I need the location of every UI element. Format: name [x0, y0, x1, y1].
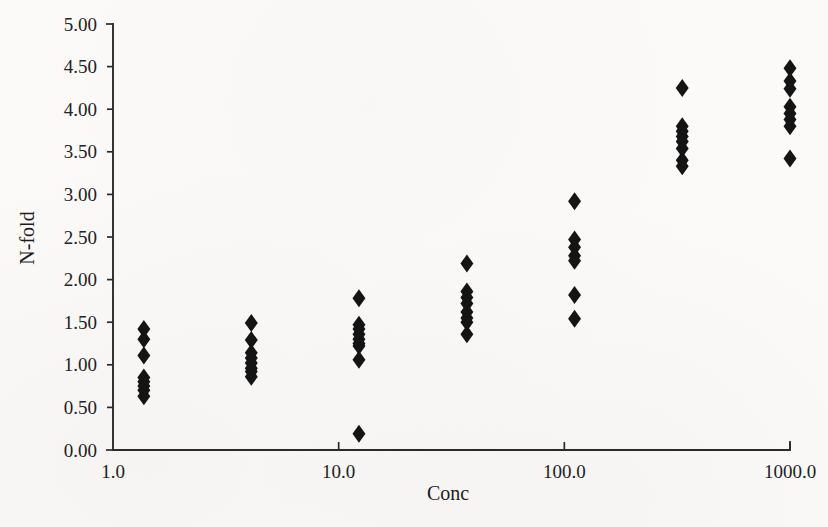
data-point-marker [137, 346, 150, 364]
data-point-marker [352, 289, 365, 307]
data-point-marker [568, 286, 581, 304]
data-point-marker [676, 79, 689, 97]
data-point-marker [352, 351, 365, 369]
y-axis-title: N-fold [16, 211, 38, 264]
y-tick-label: 0.50 [64, 397, 97, 418]
y-tick-label: 1.50 [64, 312, 97, 333]
x-tick-label: 1000.0 [764, 461, 816, 482]
x-tick-label: 1.0 [101, 461, 125, 482]
data-point-marker [245, 314, 258, 332]
x-tick-label: 100.0 [543, 461, 586, 482]
data-point-marker [352, 425, 365, 443]
data-point-marker [568, 192, 581, 210]
data-point-marker [568, 310, 581, 328]
x-tick-label: 10.0 [322, 461, 355, 482]
y-tick-label: 4.50 [64, 56, 97, 77]
x-axis-title: Conc [427, 482, 469, 504]
data-point-marker [784, 150, 797, 168]
y-tick-label: 4.00 [64, 99, 97, 120]
y-tick-label: 2.00 [64, 269, 97, 290]
data-points-layer [137, 59, 796, 443]
y-tick-label: 3.00 [64, 184, 97, 205]
data-point-marker [460, 254, 473, 272]
scatter-plot-figure: 0.000.501.001.502.002.503.003.504.004.50… [0, 0, 828, 527]
y-tick-label: 3.50 [64, 141, 97, 162]
y-tick-label: 5.00 [64, 14, 97, 35]
plot-canvas: 0.000.501.001.502.002.503.003.504.004.50… [0, 0, 828, 527]
y-axis: 0.000.501.001.502.002.503.003.504.004.50… [64, 14, 120, 461]
data-point-marker [460, 325, 473, 343]
data-point-marker [137, 330, 150, 348]
y-tick-label: 2.50 [64, 227, 97, 248]
x-axis: 1.010.0100.01000.0 [101, 441, 816, 482]
y-tick-label: 1.00 [64, 354, 97, 375]
y-tick-label: 0.00 [64, 440, 97, 461]
